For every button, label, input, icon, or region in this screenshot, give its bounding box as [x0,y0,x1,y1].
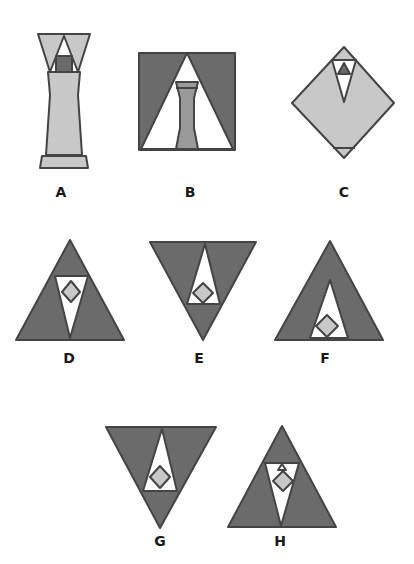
label-h: H [265,533,295,549]
figure-b-column [176,82,198,149]
figure-a-body [46,72,82,155]
figure-a [38,34,90,168]
figure-a-base [40,156,88,168]
figure-d [16,240,124,340]
figure-f [275,241,383,340]
figure-a-square [56,56,72,72]
figure-b [139,53,235,150]
figure-e [150,242,256,340]
figure-c [292,47,394,158]
label-c: C [329,184,359,200]
label-f: F [310,350,340,366]
label-e: E [184,350,214,366]
figure-g [106,427,216,528]
figure-h [228,426,336,527]
label-d: D [54,350,84,366]
figures-canvas [0,0,414,564]
label-g: G [145,533,175,549]
label-a: A [46,184,76,200]
label-b: B [175,184,205,200]
